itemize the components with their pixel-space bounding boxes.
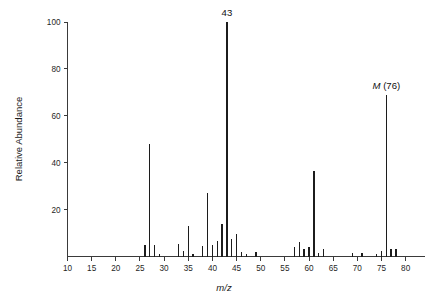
x-axis-title: m/z — [216, 282, 232, 293]
y-tick-label: 20 — [51, 206, 61, 215]
x-tick-label: 65 — [329, 264, 339, 273]
molecular-ion-symbol: M — [372, 80, 380, 91]
y-tick-label: 40 — [51, 159, 61, 168]
y-axis-title: Relative Abundance — [13, 97, 24, 182]
molecular-ion-label: M (76) — [372, 80, 400, 91]
x-tick-label: 55 — [280, 264, 290, 273]
x-tick-label: 40 — [208, 264, 218, 273]
x-tick-label: 30 — [160, 264, 170, 273]
x-tick-label: 60 — [304, 264, 314, 273]
base-peak-label: 43 — [222, 7, 233, 18]
x-tick-label: 20 — [111, 264, 121, 273]
x-tick-label: 25 — [135, 264, 145, 273]
x-tick-label: 10 — [63, 264, 73, 273]
spectrum-peaks — [145, 22, 396, 257]
x-tick-label: 15 — [87, 264, 97, 273]
mass-spectrum-figure: 20406080100 1015202530354045505560657075… — [0, 0, 444, 302]
chart-canvas: 20406080100 1015202530354045505560657075… — [0, 0, 444, 302]
x-axis-ticks — [68, 257, 406, 261]
y-tick-label: 100 — [47, 18, 61, 27]
x-tick-label: 35 — [184, 264, 194, 273]
x-tick-label: 75 — [377, 264, 387, 273]
y-axis-tick-labels: 20406080100 — [47, 18, 61, 215]
x-tick-label: 45 — [232, 264, 242, 273]
x-tick-label: 50 — [256, 264, 266, 273]
x-tick-label: 70 — [353, 264, 363, 273]
x-axis-tick-labels: 101520253035404550556065707580 — [63, 264, 411, 273]
y-tick-label: 80 — [51, 65, 61, 74]
x-tick-label: 80 — [401, 264, 411, 273]
molecular-ion-mass: (76) — [380, 80, 400, 91]
y-axis-ticks — [64, 22, 68, 210]
y-tick-label: 60 — [51, 112, 61, 121]
